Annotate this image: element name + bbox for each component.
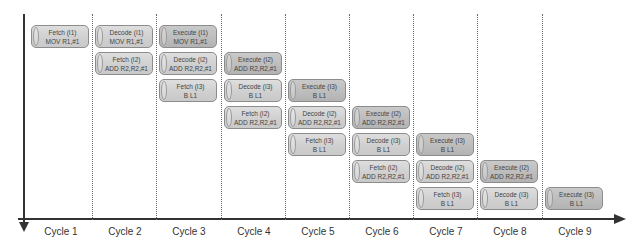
fetch-stage-block: Fetch (I3)B L1 bbox=[159, 79, 217, 102]
cycle-label: Cycle 4 bbox=[222, 226, 286, 237]
instruction-label: ADD R2,R2,#1 bbox=[358, 118, 409, 127]
execute-stage-block: Execute (I3)B L1 bbox=[416, 133, 474, 156]
cycle-divider bbox=[156, 14, 157, 220]
fetch-stage-block: Fetch (I3)B L1 bbox=[288, 133, 346, 156]
instruction-label: MOV R1,#1 bbox=[101, 37, 152, 46]
cycle-label: Cycle 1 bbox=[29, 226, 93, 237]
cycle-label: Cycle 8 bbox=[478, 226, 542, 237]
cycle-divider bbox=[542, 14, 543, 220]
stage-label: Execute (I1) bbox=[165, 28, 216, 37]
stage-label: Decode (I2) bbox=[294, 109, 345, 118]
execute-stage-block: Execute (I3)B L1 bbox=[288, 79, 346, 102]
cycle-divider bbox=[221, 14, 222, 220]
decode-stage-block: Decode (I2)ADD R2,R2,#1 bbox=[288, 106, 346, 129]
instruction-label: MOV R1,#1 bbox=[37, 37, 88, 46]
instruction-label: ADD R2,R2,#1 bbox=[486, 172, 537, 181]
stage-label: Fetch (I3) bbox=[422, 190, 473, 199]
decode-stage-block: Decode (I3)B L1 bbox=[480, 187, 538, 210]
instruction-label: B L1 bbox=[230, 91, 281, 100]
decode-stage-block: Decode (I3)B L1 bbox=[224, 79, 282, 102]
instruction-label: ADD R2,R2,#1 bbox=[294, 118, 345, 127]
stage-label: Execute (I2) bbox=[230, 55, 281, 64]
instruction-label: B L1 bbox=[294, 145, 345, 154]
pipeline-diagram: Cycle 1Cycle 2Cycle 3Cycle 4Cycle 5Cycle… bbox=[0, 0, 634, 248]
instruction-label: ADD R2,R2,#1 bbox=[358, 172, 409, 181]
execute-stage-block: Execute (I3)B L1 bbox=[545, 187, 603, 210]
execute-stage-block: Execute (I1)MOV R1,#1 bbox=[159, 25, 217, 48]
down-arrow-icon bbox=[19, 222, 29, 232]
instruction-label: ADD R2,R2,#1 bbox=[165, 64, 216, 73]
right-arrow-icon bbox=[614, 214, 626, 224]
stage-label: Fetch (I2) bbox=[230, 109, 281, 118]
decode-stage-block: Decode (I1)MOV R1,#1 bbox=[95, 25, 153, 48]
cycle-label: Cycle 2 bbox=[93, 226, 157, 237]
time-axis bbox=[18, 218, 618, 220]
decode-stage-block: Decode (I2)ADD R2,R2,#1 bbox=[159, 52, 217, 75]
stage-label: Fetch (I3) bbox=[294, 136, 345, 145]
fetch-stage-block: Fetch (I3)B L1 bbox=[416, 187, 474, 210]
cycle-divider bbox=[285, 14, 286, 220]
stage-label: Execute (I2) bbox=[358, 109, 409, 118]
stage-label: Decode (I3) bbox=[486, 190, 537, 199]
instruction-label: B L1 bbox=[422, 145, 473, 154]
instruction-label: B L1 bbox=[422, 199, 473, 208]
stage-label: Decode (I2) bbox=[422, 163, 473, 172]
instruction-label: B L1 bbox=[486, 199, 537, 208]
stage-label: Execute (I3) bbox=[422, 136, 473, 145]
fetch-stage-block: Fetch (I2)ADD R2,R2,#1 bbox=[352, 160, 410, 183]
fetch-stage-block: Fetch (I1)MOV R1,#1 bbox=[31, 25, 89, 48]
stage-label: Decode (I3) bbox=[358, 136, 409, 145]
instruction-label: B L1 bbox=[294, 91, 345, 100]
vertical-axis bbox=[23, 14, 25, 224]
stage-label: Fetch (I2) bbox=[358, 163, 409, 172]
cycle-divider bbox=[413, 14, 414, 220]
decode-stage-block: Decode (I2)ADD R2,R2,#1 bbox=[416, 160, 474, 183]
cycle-label: Cycle 5 bbox=[286, 226, 350, 237]
instruction-label: B L1 bbox=[551, 199, 602, 208]
cycle-divider bbox=[92, 14, 93, 220]
decode-stage-block: Decode (I3)B L1 bbox=[352, 133, 410, 156]
instruction-label: MOV R1,#1 bbox=[165, 37, 216, 46]
instruction-label: B L1 bbox=[165, 91, 216, 100]
stage-label: Fetch (I1) bbox=[37, 28, 88, 37]
cycle-divider bbox=[349, 14, 350, 220]
instruction-label: B L1 bbox=[358, 145, 409, 154]
stage-label: Decode (I3) bbox=[230, 82, 281, 91]
stage-label: Decode (I2) bbox=[165, 55, 216, 64]
cycle-label: Cycle 7 bbox=[414, 226, 478, 237]
execute-stage-block: Execute (I2)ADD R2,R2,#1 bbox=[480, 160, 538, 183]
stage-label: Execute (I2) bbox=[486, 163, 537, 172]
instruction-label: ADD R2,R2,#1 bbox=[422, 172, 473, 181]
stage-label: Fetch (I3) bbox=[165, 82, 216, 91]
execute-stage-block: Execute (I2)ADD R2,R2,#1 bbox=[224, 52, 282, 75]
instruction-label: ADD R2,R2,#1 bbox=[101, 64, 152, 73]
cycle-label: Cycle 6 bbox=[350, 226, 414, 237]
cycle-label: Cycle 9 bbox=[543, 226, 607, 237]
instruction-label: ADD R2,R2,#1 bbox=[230, 64, 281, 73]
cycle-label: Cycle 3 bbox=[157, 226, 221, 237]
stage-label: Execute (I3) bbox=[294, 82, 345, 91]
cycle-divider bbox=[477, 14, 478, 220]
stage-label: Fetch (I2) bbox=[101, 55, 152, 64]
instruction-label: ADD R2,R2,#1 bbox=[230, 118, 281, 127]
fetch-stage-block: Fetch (I2)ADD R2,R2,#1 bbox=[224, 106, 282, 129]
fetch-stage-block: Fetch (I2)ADD R2,R2,#1 bbox=[95, 52, 153, 75]
execute-stage-block: Execute (I2)ADD R2,R2,#1 bbox=[352, 106, 410, 129]
stage-label: Execute (I3) bbox=[551, 190, 602, 199]
stage-label: Decode (I1) bbox=[101, 28, 152, 37]
